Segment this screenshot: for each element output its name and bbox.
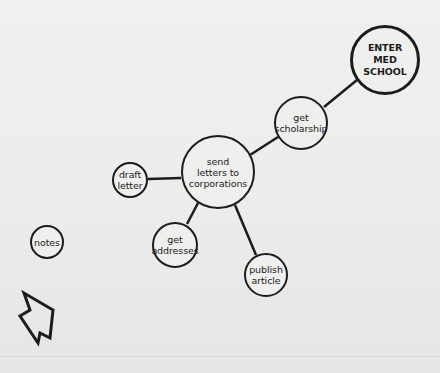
node-label: notes	[34, 237, 60, 248]
edge-send-letters-get-addresses	[187, 203, 198, 224]
node-label: get scholarship	[275, 112, 328, 134]
node-draft-letter[interactable]: draft letter	[112, 162, 148, 198]
edge-send-letters-draft-letter	[148, 178, 181, 179]
node-publish-article[interactable]: publish article	[244, 253, 288, 297]
node-notes[interactable]: notes	[30, 225, 64, 259]
diagram-canvas: ENTER MED SCHOOL get scholarship send le…	[0, 0, 440, 373]
node-label: get addresses	[151, 234, 198, 256]
arrow-cursor-icon	[20, 293, 53, 343]
edge-scholarship-send-letters	[250, 137, 278, 155]
node-get-addresses[interactable]: get addresses	[152, 222, 198, 268]
node-enter-med-school[interactable]: ENTER MED SCHOOL	[350, 25, 420, 95]
edge-goal-scholarship	[324, 80, 357, 107]
node-send-letters-to-corporations[interactable]: send letters to corporations	[181, 135, 255, 209]
node-label: ENTER MED SCHOOL	[363, 42, 406, 78]
edge-send-letters-publish-article	[235, 205, 256, 255]
node-label: send letters to corporations	[189, 156, 247, 189]
node-label: draft letter	[117, 169, 142, 191]
node-get-scholarship[interactable]: get scholarship	[274, 96, 328, 150]
node-label: publish article	[249, 264, 283, 286]
